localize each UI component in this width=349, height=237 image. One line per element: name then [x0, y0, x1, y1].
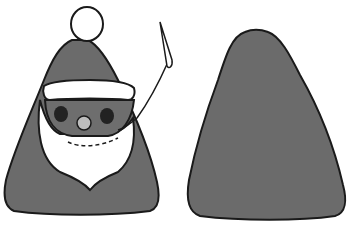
pompom: [71, 7, 103, 41]
hat-brim: [43, 80, 134, 100]
plain-cone: [188, 30, 345, 220]
illustration: [0, 0, 349, 237]
needle-icon: [160, 22, 172, 68]
nose: [77, 116, 91, 130]
left-eye: [54, 106, 68, 122]
illustration-canvas: [0, 0, 349, 237]
santa-figure: [5, 7, 173, 215]
right-eye: [100, 108, 114, 124]
